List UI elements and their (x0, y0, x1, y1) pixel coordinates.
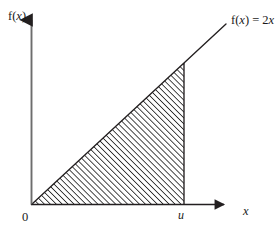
y-axis-label-text: f(x) (8, 9, 26, 23)
y-axis-label: f(x) (8, 10, 26, 23)
figure-canvas (0, 0, 278, 239)
function-label-text: f(x) = 2x (231, 13, 274, 27)
x-axis-label: x (243, 205, 249, 218)
function-label: f(x) = 2x (231, 14, 274, 27)
math-figure: f(x) 0 u x f(x) = 2x (0, 0, 278, 239)
upper-limit-label: u (178, 209, 184, 221)
x-axis-label-text: x (243, 204, 249, 218)
origin-label-text: 0 (22, 210, 28, 224)
upper-limit-label-text: u (178, 208, 184, 222)
origin-label: 0 (22, 211, 28, 224)
